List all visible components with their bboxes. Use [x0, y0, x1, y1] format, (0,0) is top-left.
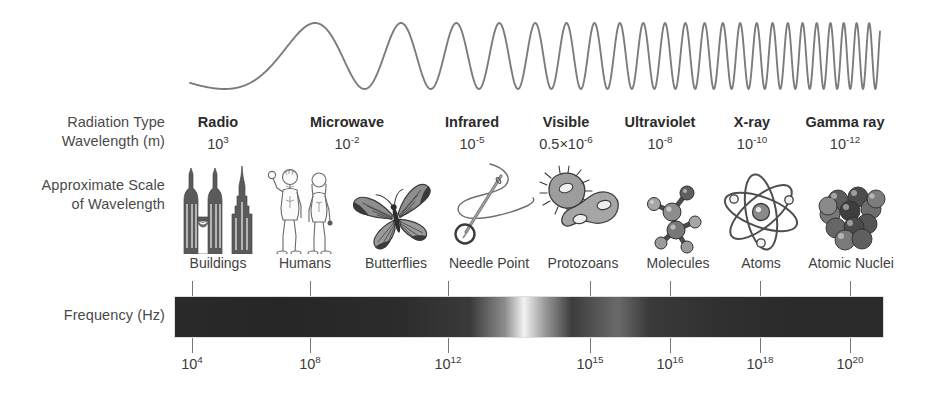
radiation-band-name: Ultraviolet [625, 114, 696, 130]
frequency-tick-top [850, 281, 851, 296]
radiation-band-wavelength: 10-5 [460, 136, 485, 152]
icon-slot-humans [268, 166, 342, 254]
frequency-axis-label: Frequency (Hz) [0, 306, 165, 325]
radiation-band-wavelength: 0.5×10-6 [539, 136, 593, 152]
icon-slot-molecules [642, 180, 714, 254]
row-label-radiation-type: Radiation Type Wavelength (m) [0, 113, 165, 151]
needle-icon [443, 162, 535, 254]
scale-icons-row [0, 156, 935, 254]
frequency-tick-bottom [760, 338, 761, 353]
radiation-band-name: Microwave [310, 114, 384, 130]
frequency-tick-label: 104 [181, 356, 203, 372]
electromagnetic-spectrum-diagram: Radiation Type Wavelength (m) Approximat… [0, 0, 935, 395]
radiation-band-name: Radio [198, 114, 238, 130]
frequency-tick-top [670, 281, 671, 296]
frequency-tick-bottom [310, 338, 311, 353]
icon-slot-needle [443, 162, 535, 254]
radiation-band-wavelength: 10-2 [335, 136, 360, 152]
frequency-tick-bottom [670, 338, 671, 353]
scale-object-label: Protozoans [548, 255, 619, 271]
wave-path [190, 23, 880, 89]
icon-slot-protozoans [536, 164, 630, 254]
scale-object-label: Butterflies [365, 255, 427, 271]
radiation-band-wavelength: 10-12 [830, 136, 860, 152]
skyscrapers-icon [175, 162, 261, 254]
icon-slot-atomic-nuclei [814, 178, 888, 254]
icon-slot-buildings [175, 162, 261, 254]
radiation-type-label: Radiation Type [0, 113, 165, 132]
frequency-tick-bottom [850, 338, 851, 353]
frequency-tick-top [192, 281, 193, 296]
frequency-tick-bottom [590, 338, 591, 353]
scale-object-label: Humans [279, 255, 331, 271]
radiation-band-name: Gamma ray [806, 114, 885, 130]
frequency-tick-bottom [448, 338, 449, 353]
scale-object-label: Molecules [646, 255, 709, 271]
frequency-tick-label: 1015 [576, 356, 603, 372]
frequency-tick-label: 1012 [434, 356, 461, 372]
frequency-tick-top [760, 281, 761, 296]
scale-object-label: Atomic Nuclei [808, 255, 894, 271]
molecule-icon [642, 180, 714, 254]
scale-object-label: Needle Point [449, 255, 529, 271]
frequency-tick-label: 1020 [836, 356, 863, 372]
radiation-band-wavelength: 10-8 [648, 136, 673, 152]
atom-icon [719, 170, 803, 254]
icon-slot-butterfly [348, 176, 444, 254]
frequency-tick-top [310, 281, 311, 296]
butterfly-icon [348, 176, 444, 254]
wavelength-label: Wavelength (m) [0, 132, 165, 151]
atomic-nuclei-icon [814, 178, 888, 254]
icon-slot-atom [719, 170, 803, 254]
frequency-tick-label: 108 [299, 356, 321, 372]
frequency-tick-label: 1018 [746, 356, 773, 372]
radiation-band-name: Visible [543, 114, 589, 130]
frequency-tick-top [448, 281, 449, 296]
scale-object-label: Buildings [190, 255, 247, 271]
frequency-tick-top [590, 281, 591, 296]
radiation-band-wavelength: 10-10 [737, 136, 767, 152]
wave-illustration [0, 4, 935, 96]
scale-object-label: Atoms [741, 255, 781, 271]
frequency-tick-bottom [192, 338, 193, 353]
spectrum-bar [174, 296, 884, 338]
radiation-band-wavelength: 103 [207, 136, 229, 152]
protozoan-icon [536, 164, 630, 254]
radiation-band-name: X-ray [734, 114, 770, 130]
humans-icon [268, 166, 342, 254]
radiation-band-name: Infrared [445, 114, 499, 130]
row-label-frequency: Frequency (Hz) [0, 306, 165, 325]
frequency-tick-label: 1016 [656, 356, 683, 372]
